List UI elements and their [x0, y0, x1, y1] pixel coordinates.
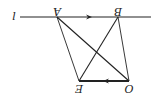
- label-B: B: [114, 5, 123, 18]
- label-A: A: [53, 5, 62, 18]
- label-O: O: [124, 82, 133, 95]
- geometry-diagram: l A B E O: [0, 0, 151, 100]
- label-l: l: [12, 9, 16, 22]
- label-E: E: [75, 82, 84, 95]
- segment-BE: [79, 17, 118, 81]
- segment-BO: [118, 17, 129, 81]
